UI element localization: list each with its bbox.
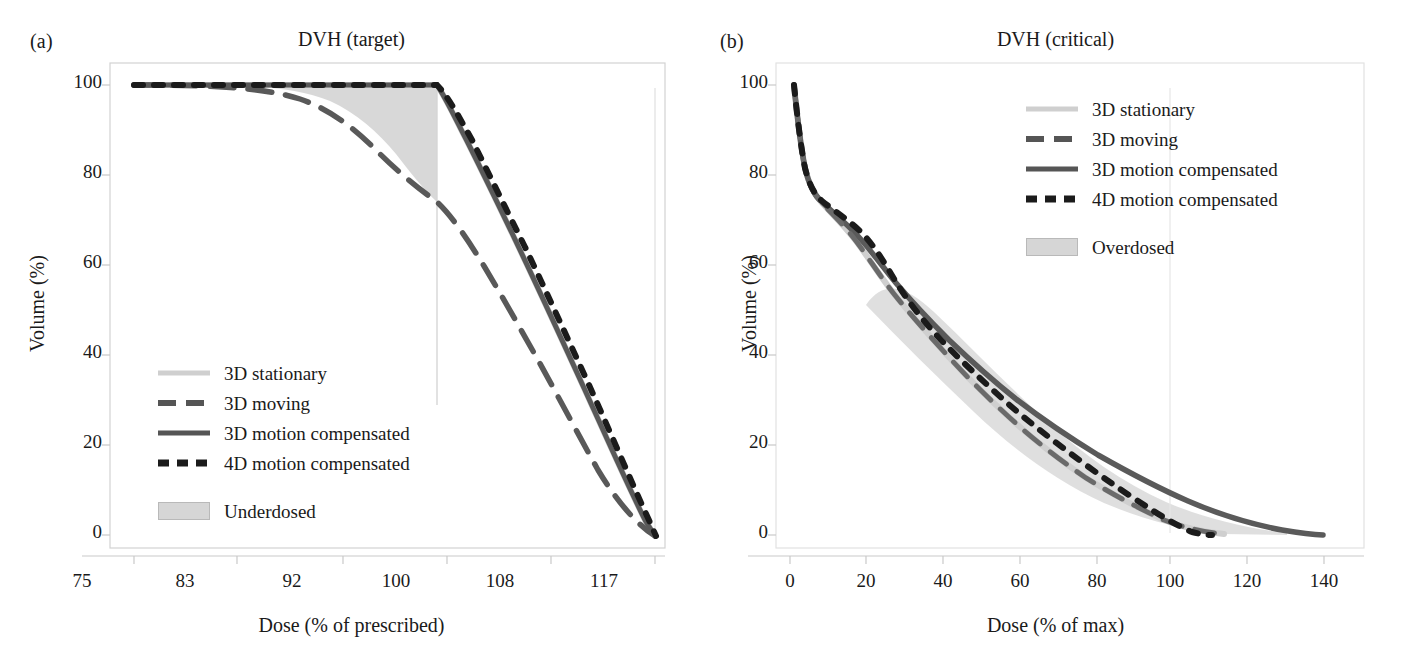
panel-a-legend-spacer xyxy=(158,478,410,496)
panel-b-legend-row-stationary: 3D stationary xyxy=(1026,94,1278,124)
panel-a-legend-row-fill: Underdosed xyxy=(158,496,410,526)
panel-b-legend-label-stationary: 3D stationary xyxy=(1092,100,1195,119)
panel-b-legend-label-3d-mc: 3D motion compensated xyxy=(1092,160,1278,179)
line-stationary-icon xyxy=(158,363,210,383)
dvh-figure: (a) DVH (target) Volume (%) 100 80 60 40… xyxy=(0,0,1407,669)
panel-b-legend-row-moving: 3D moving xyxy=(1026,124,1278,154)
line-solid-icon xyxy=(158,423,210,443)
panel-b-legend-row-3d-mc: 3D motion compensated xyxy=(1026,154,1278,184)
panel-a-legend-row-stationary: 3D stationary xyxy=(158,358,410,388)
panel-a-plot-svg xyxy=(0,0,703,669)
line-dashed-icon xyxy=(158,393,210,413)
panel-b-legend: 3D stationary 3D moving 3D motion compen… xyxy=(1026,94,1278,262)
panel-a-legend-row-3d-mc: 3D motion compensated xyxy=(158,418,410,448)
fill-swatch-icon xyxy=(158,501,210,521)
panel-a-legend-row-4d-mc: 4D motion compensated xyxy=(158,448,410,478)
panel-a-legend-label-moving: 3D moving xyxy=(224,394,310,413)
panel-a-x-ticks xyxy=(134,556,655,564)
line-stationary-icon xyxy=(1026,99,1078,119)
panel-b-legend-row-4d-mc: 4D motion compensated xyxy=(1026,184,1278,214)
panel-b-y-ticks xyxy=(768,85,776,535)
panel-a-legend-label-fill: Underdosed xyxy=(224,502,316,521)
panel-a-legend-label-4d-mc: 4D motion compensated xyxy=(224,454,410,473)
panel-b-legend-spacer xyxy=(1026,214,1278,232)
panel-a-legend: 3D stationary 3D moving 3D motion compen… xyxy=(158,358,410,526)
line-solid-icon xyxy=(1026,159,1078,179)
panel-a-underdosed-region xyxy=(134,85,437,202)
line-dashed-icon xyxy=(1026,129,1078,149)
panel-b-legend-label-fill: Overdosed xyxy=(1092,238,1174,257)
panel-a-dvh-target: (a) DVH (target) Volume (%) 100 80 60 40… xyxy=(0,0,703,669)
panel-a-legend-label-3d-mc: 3D motion compensated xyxy=(224,424,410,443)
panel-b-dvh-critical: (b) DVH (critical) Volume (%) 100 80 60 … xyxy=(704,0,1407,669)
panel-a-legend-row-moving: 3D moving xyxy=(158,388,410,418)
fill-swatch-icon xyxy=(1026,237,1078,257)
panel-b-legend-label-moving: 3D moving xyxy=(1092,130,1178,149)
line-dotted-icon xyxy=(158,453,210,473)
line-dotted-icon xyxy=(1026,189,1078,209)
panel-a-y-ticks xyxy=(102,85,110,535)
panel-b-x-ticks xyxy=(790,556,1324,564)
panel-a-legend-label-stationary: 3D stationary xyxy=(224,364,327,383)
panel-b-legend-label-4d-mc: 4D motion compensated xyxy=(1092,190,1278,209)
panel-b-legend-row-fill: Overdosed xyxy=(1026,232,1278,262)
